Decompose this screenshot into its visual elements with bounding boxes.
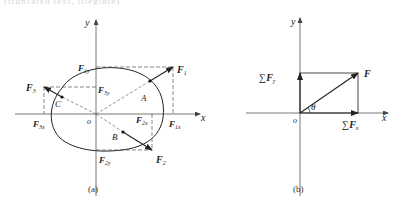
F2x-label: F2x <box>135 115 148 126</box>
rigid-body-outline <box>51 68 163 151</box>
F2-label: F2 <box>155 154 166 166</box>
y-axis-label: y <box>84 17 90 28</box>
dashed-OC <box>62 97 96 114</box>
point-B-dot <box>121 130 124 133</box>
diagram-b: x y o θ F ∑Fy ∑Fx (b) <box>246 16 388 196</box>
F1x-label: F1x <box>168 119 181 130</box>
F1-label: F1 <box>176 64 187 76</box>
point-A-label: A <box>140 93 147 103</box>
point-B-label: B <box>112 132 118 142</box>
resultant-F-label: F <box>363 68 371 79</box>
F2y-label: F2y <box>98 155 111 166</box>
F3y-label: F3y <box>97 85 110 96</box>
force-F1-arrow <box>150 67 173 81</box>
F3x-label: F3x <box>32 119 45 130</box>
F3-label: F3 <box>25 82 36 94</box>
x-axis-label: x <box>200 112 206 123</box>
origin-label-b: o <box>293 116 297 125</box>
origin-label: o <box>87 117 91 126</box>
caption-a: (a) <box>88 184 98 194</box>
dashed-OB <box>96 114 123 132</box>
sum-Fy-label: ∑Fy <box>259 72 276 84</box>
point-A-dot <box>148 79 151 82</box>
point-C-label: C <box>55 99 62 109</box>
F1y-label: F1y <box>77 63 90 74</box>
y-axis-label-b: y <box>290 16 296 27</box>
x-axis-label-b: x <box>381 112 387 123</box>
resultant-F-arrow <box>300 73 358 113</box>
diagram-a: x y o A B C F1 F1y F1x F3 F3y <box>15 17 206 196</box>
theta-arc <box>308 108 310 114</box>
caption-b: (b) <box>293 184 304 194</box>
theta-label: θ <box>311 102 316 112</box>
sum-Fx-label: ∑Fx <box>342 119 359 131</box>
force-F2-arrow <box>123 132 152 150</box>
force-diagrams: x y o A B C F1 F1y F1x F3 F3y <box>0 0 398 207</box>
